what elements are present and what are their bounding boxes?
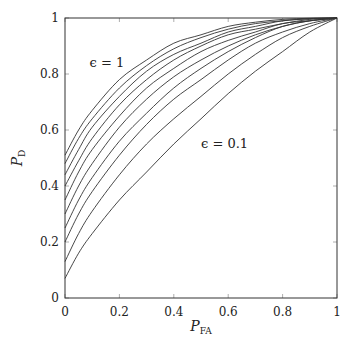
y-tick-label: 0.2 bbox=[40, 235, 59, 249]
x-axis-label: PFA bbox=[189, 318, 212, 336]
x-tick-label: 0.4 bbox=[164, 305, 183, 319]
x-tick-label: 0.6 bbox=[219, 305, 238, 319]
annotation-epsilon-0-1: ϵ = 0.1 bbox=[201, 136, 248, 151]
y-tick-labels: 00.20.40.60.81 bbox=[40, 11, 59, 305]
y-tick-label: 0.8 bbox=[40, 67, 59, 81]
y-tick-label: 0.6 bbox=[40, 123, 59, 137]
y-tick-label: 0 bbox=[51, 291, 59, 305]
roc-chart: 00.20.40.60.81 00.20.40.60.81 PFA PD ϵ =… bbox=[0, 0, 352, 345]
x-tick-labels: 00.20.40.60.81 bbox=[61, 305, 341, 319]
annotation-epsilon-1: ϵ = 1 bbox=[89, 55, 124, 70]
x-tick-label: 0.2 bbox=[110, 305, 129, 319]
roc-curve bbox=[65, 18, 337, 214]
x-tick-label: 0.8 bbox=[273, 305, 292, 319]
roc-curve bbox=[65, 18, 337, 228]
x-tick-label: 1 bbox=[333, 305, 341, 319]
roc-curve bbox=[65, 18, 337, 155]
y-tick-label: 0.4 bbox=[40, 179, 59, 193]
y-axis-label: PD bbox=[9, 150, 27, 168]
y-tick-label: 1 bbox=[51, 11, 59, 25]
x-tick-label: 0 bbox=[61, 305, 69, 319]
